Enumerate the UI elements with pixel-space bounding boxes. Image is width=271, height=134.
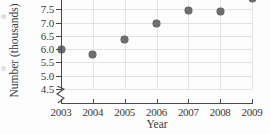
data-point: [89, 51, 96, 58]
y-tick-label: 5.5: [28, 57, 54, 68]
data-point: [153, 20, 160, 27]
x-tick: [188, 99, 189, 104]
y-tick-label: 6.5: [28, 31, 54, 42]
y-tick: [56, 36, 62, 37]
scan-artifact-top: [1, 14, 6, 19]
x-tick: [125, 99, 126, 104]
y-axis-line: [61, 0, 62, 91]
y-tick: [56, 9, 62, 10]
plot-area: [61, 0, 252, 89]
x-tick: [93, 99, 94, 104]
gridline-vertical: [125, 0, 126, 89]
y-tick: [56, 76, 62, 77]
y-tick-label: 4.5: [28, 84, 54, 95]
gridline-vertical: [93, 0, 94, 89]
y-tick: [56, 62, 62, 63]
gridline-vertical: [157, 0, 158, 89]
data-point: [185, 7, 192, 14]
data-point: [217, 8, 224, 15]
scan-artifact-bottom: [1, 66, 6, 71]
y-tick: [56, 89, 62, 90]
gridline-vertical: [252, 0, 253, 89]
x-tick-label: 2009: [232, 106, 271, 118]
y-tick-label: 8.0: [28, 0, 54, 2]
y-tick: [56, 23, 62, 24]
x-tick: [220, 99, 221, 104]
y-tick-label: 7.5: [28, 4, 54, 15]
y-tick-label: 6.0: [28, 44, 54, 55]
x-tick: [157, 99, 158, 104]
y-tick: [56, 49, 62, 50]
y-tick-label: 5.0: [28, 71, 54, 82]
y-axis-label: Number (thousands): [8, 0, 21, 107]
x-tick: [61, 99, 62, 104]
chart-figure: Number (thousands) 4.55.05.56.06.57.07.5…: [0, 0, 271, 134]
x-axis-label: Year: [61, 118, 253, 131]
gridline-horizontal: [61, 89, 252, 90]
data-point: [121, 36, 128, 43]
x-tick: [252, 99, 253, 104]
y-tick-label: 7.0: [28, 18, 54, 29]
data-point: [249, 0, 256, 2]
